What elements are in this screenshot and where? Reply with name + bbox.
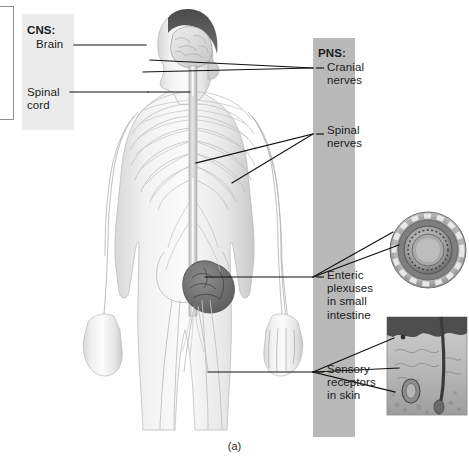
figure-caption: (a) <box>0 440 469 452</box>
label-enteric-plexuses: Enteric plexuses in small intestine <box>327 269 373 322</box>
label-sensory-receptors: Sensory receptors in skin <box>327 363 376 403</box>
leader-lines-overlay <box>0 0 469 466</box>
pns-heading: PNS: <box>318 47 346 60</box>
label-brain: Brain <box>36 38 63 51</box>
cns-heading: CNS: <box>27 24 56 37</box>
label-spinal-nerves: Spinal nerves <box>327 124 362 150</box>
label-cranial-nerves: Cranial nerves <box>327 61 364 87</box>
nervous-system-figure: CNS: Brain Spinal cord PNS: Cranial nerv… <box>0 0 469 466</box>
label-spinal-cord: Spinal cord <box>27 86 60 112</box>
